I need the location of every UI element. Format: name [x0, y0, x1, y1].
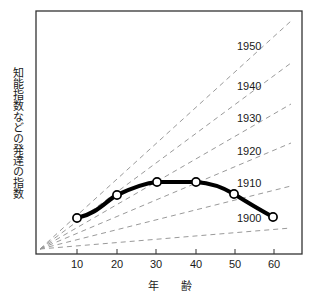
data-point-marker: [153, 178, 161, 186]
year-annotation-1920: 1920: [237, 145, 261, 157]
year-annotation-1930: 1930: [237, 112, 261, 124]
year-annotation-1910: 1910: [237, 177, 261, 189]
data-point-marker: [269, 213, 277, 221]
x-tick-label-60: 60: [262, 258, 286, 270]
year-annotation-1940: 1940: [237, 80, 261, 92]
x-tick-label-40: 40: [184, 258, 208, 270]
x-tick-label-30: 30: [144, 258, 168, 270]
year-annotation-1900: 1900: [237, 212, 261, 224]
x-tick-label-20: 20: [105, 258, 129, 270]
chart-figure: 知能指数などの発達の指数 10 20: [0, 0, 312, 304]
data-point-marker: [230, 190, 238, 198]
x-tick-label-50: 50: [223, 258, 247, 270]
x-tick-label-10: 10: [65, 258, 89, 270]
data-point-marker: [192, 178, 200, 186]
data-point-marker: [113, 191, 121, 199]
data-point-marker: [73, 214, 81, 222]
x-axis-title: 年 齢: [110, 277, 230, 293]
year-annotation-1950: 1950: [237, 40, 261, 52]
